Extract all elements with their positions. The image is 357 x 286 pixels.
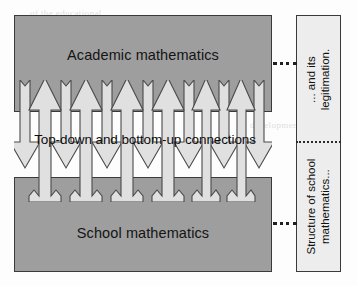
diagram-canvas: of the educational in mathematics and de… bbox=[0, 0, 357, 286]
academic-mathematics-label: Academic mathematics bbox=[67, 47, 219, 63]
down-arrow-icon bbox=[51, 80, 81, 168]
sidebar-divider-dotted-line bbox=[296, 141, 341, 143]
sidebar-cell-structure: Structure of school mathematics... bbox=[297, 143, 340, 270]
down-arrow-icon bbox=[92, 80, 122, 168]
sidebar-structure-line2: mathematics... bbox=[319, 159, 333, 255]
sidebar-structure-label: Structure of school mathematics... bbox=[305, 159, 332, 255]
down-arrow-icon bbox=[14, 80, 40, 168]
connector-top-dotted-line bbox=[273, 62, 297, 65]
down-arrow-icon bbox=[133, 80, 163, 168]
structure-sidebar: ... and its legitimation. Structure of s… bbox=[296, 15, 341, 272]
sidebar-legitimation-label: ... and its legitimation. bbox=[305, 49, 332, 110]
sidebar-cell-legitimation: ... and its legitimation. bbox=[297, 16, 340, 143]
school-mathematics-label: School mathematics bbox=[77, 225, 209, 241]
connector-bottom-dotted-line bbox=[273, 222, 297, 225]
sidebar-legitimation-line1: ... and its bbox=[305, 56, 317, 103]
connections-caption: Top-down and bottom-up connections bbox=[14, 132, 276, 147]
sidebar-structure-line1: Structure of school bbox=[305, 159, 317, 255]
sidebar-legitimation-line2: legitimation. bbox=[319, 49, 333, 110]
